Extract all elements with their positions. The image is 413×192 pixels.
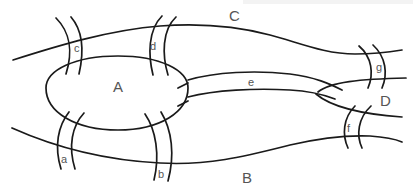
region-label-a: A (113, 78, 123, 95)
bridge-label-f: f (347, 122, 351, 134)
peninsula-d-upper-bank (318, 78, 406, 92)
bridge-label-e: e (248, 76, 254, 88)
channel-lower-bank (188, 89, 335, 99)
bridge-g-left-rail (359, 46, 371, 88)
bridge-e-end-upper (178, 83, 188, 88)
bridge-label-g: g (376, 61, 382, 73)
north-riverbank (13, 25, 402, 60)
south-riverbank (12, 128, 402, 164)
region-label-b: B (242, 169, 252, 186)
konigsberg-bridges-diagram: A B C D a b c d e f g (0, 0, 413, 192)
bridge-label-b: b (158, 168, 164, 180)
bridge-label-d: d (150, 40, 156, 52)
bridge-label-a: a (61, 153, 68, 165)
channel-upper-bank (188, 72, 342, 90)
bridge-label-c: c (74, 42, 80, 54)
region-label-d: D (380, 92, 391, 109)
region-label-c: C (229, 7, 240, 24)
